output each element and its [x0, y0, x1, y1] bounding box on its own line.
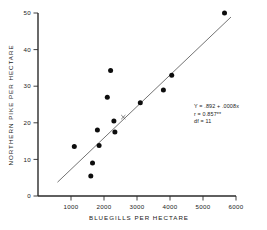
x-tick-label: 2000	[96, 203, 111, 210]
regression-line	[58, 17, 232, 182]
chart-canvas: 0 10 20 30 40 50 1000 2000 3000 4000 500…	[0, 0, 267, 230]
regression-equation-text: Y = .892 + .0008x	[194, 103, 239, 109]
y-tick-label: 40	[23, 46, 31, 53]
x-axis-ticks: 1000 2000 3000 4000 5000 6000	[63, 196, 243, 210]
scatter-plot-figure: 0 10 20 30 40 50 1000 2000 3000 4000 500…	[0, 0, 267, 230]
data-point	[169, 73, 174, 78]
statistics-annotation: Y = .892 + .0008x r = 0.857** df = 11	[194, 103, 239, 124]
degrees-of-freedom-text: df = 11	[194, 118, 211, 124]
x-tick-label: 1000	[63, 203, 78, 210]
data-point	[90, 161, 95, 166]
y-tick-label: 30	[23, 82, 31, 89]
x-axis-title: BLUEGILLS PER HECTARE	[89, 214, 189, 221]
data-point	[138, 100, 143, 105]
x-tick-label: 6000	[228, 203, 243, 210]
data-point	[111, 119, 116, 124]
y-axis-title: NORTHERN PIKE PER HECTARE	[7, 44, 14, 165]
data-point	[108, 68, 113, 73]
data-point	[112, 130, 117, 135]
y-tick-label: 0	[27, 192, 31, 199]
centroid-marker-icon	[121, 115, 125, 119]
data-point	[72, 144, 77, 149]
data-point	[105, 95, 110, 100]
data-point	[222, 11, 227, 16]
x-tick-label: 3000	[129, 203, 144, 210]
data-point	[97, 143, 102, 148]
data-point	[161, 87, 166, 92]
y-tick-label: 10	[23, 156, 31, 163]
data-point	[88, 173, 93, 178]
data-point	[95, 128, 100, 133]
y-tick-label: 20	[23, 119, 31, 126]
y-axis-ticks: 0 10 20 30 40 50	[23, 9, 38, 199]
y-tick-label: 50	[23, 9, 31, 16]
x-tick-label: 4000	[162, 203, 177, 210]
x-tick-label: 5000	[195, 203, 210, 210]
correlation-coefficient-text: r = 0.857**	[194, 111, 222, 117]
